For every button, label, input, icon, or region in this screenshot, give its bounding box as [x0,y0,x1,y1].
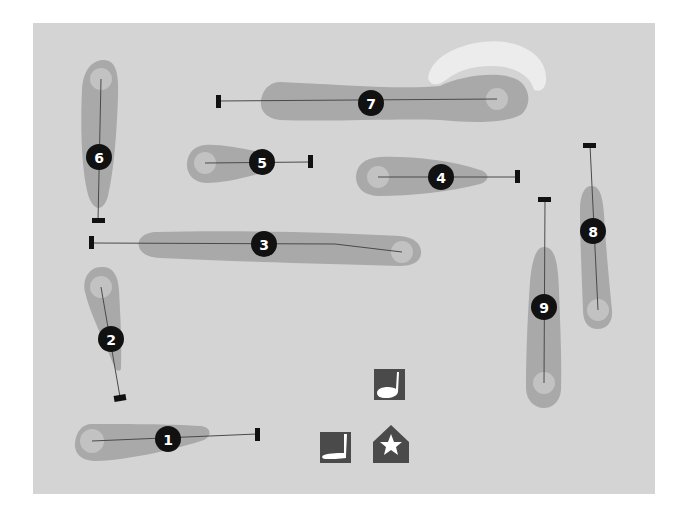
hole-number-2: 2 [106,332,116,348]
tee-marker-hole-8 [583,143,596,148]
hole-marker-9[interactable]: 9 [531,294,557,320]
hole-marker-3[interactable]: 3 [251,231,277,257]
hole-number-4: 4 [436,170,446,186]
hole-number-6: 6 [94,150,104,166]
tee-marker-hole-4 [515,170,520,183]
tee-marker-hole-9 [538,197,551,202]
tee-marker-hole-7 [216,95,221,108]
hole-marker-2[interactable]: 2 [98,326,124,352]
hole-number-5: 5 [257,155,267,171]
hole-number-7: 7 [366,96,376,112]
golf-course-map: 1 2 3 4 5 6 7 8 9 [0,0,673,521]
tee-marker-hole-1 [255,428,260,441]
tee-marker-hole-6 [92,218,105,223]
hole-number-1: 1 [163,432,173,448]
hole-marker-1[interactable]: 1 [155,426,181,452]
hole-number-9: 9 [539,300,549,316]
hole-marker-8[interactable]: 8 [580,218,606,244]
tee-marker-hole-3 [89,236,94,249]
hole-number-8: 8 [588,224,598,240]
hole-number-3: 3 [259,237,269,253]
hole-marker-4[interactable]: 4 [428,164,454,190]
hole-marker-6[interactable]: 6 [86,144,112,170]
hole-marker-5[interactable]: 5 [249,149,275,175]
putting-green-icon[interactable] [320,432,351,463]
hole-marker-7[interactable]: 7 [358,90,384,116]
driving-range-icon[interactable] [374,369,405,400]
tee-marker-hole-5 [308,155,313,168]
